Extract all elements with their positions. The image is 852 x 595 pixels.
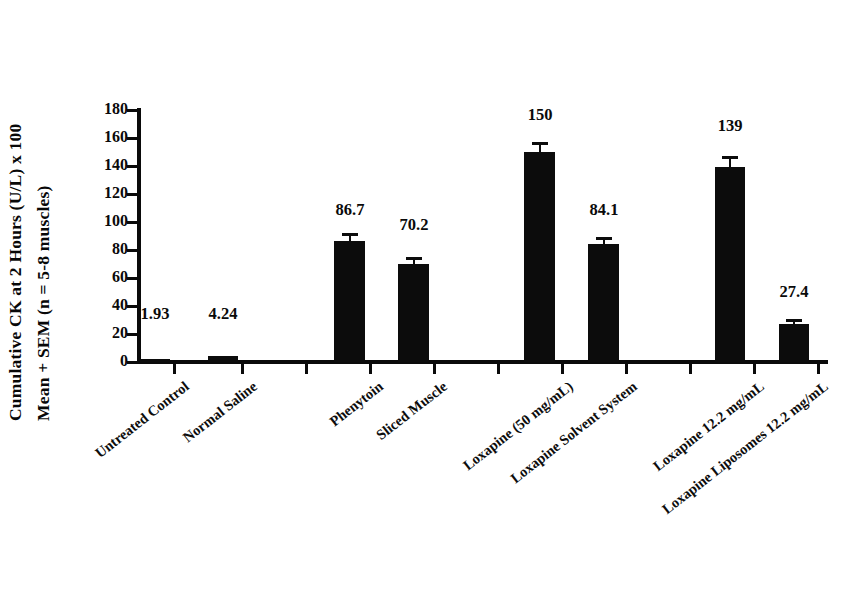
x-axis-category-label-text: Loxapine 12.2 mg/mL: [650, 378, 767, 475]
x-axis-category-label: Loxapine (50 mg/mL): [566, 295, 682, 391]
bar-chart-figure: Cumulative CK at 2 Hours (U/L) x 100 Mea…: [0, 0, 852, 595]
x-axis-category-label-text: Loxapine (50 mg/mL): [460, 378, 576, 474]
x-axis-category-label-text: Phenytoin: [326, 378, 386, 430]
x-axis-category-labels: Untreated ControlNormal SalinePhenytoinS…: [0, 0, 852, 595]
x-axis-category-label-text: Untreated Control: [92, 378, 192, 462]
x-axis-category-label-text: Loxapine Solvent System: [507, 378, 640, 487]
x-axis-category-label: Sliced Muscle: [440, 326, 517, 392]
x-axis-category-label: Loxapine Solvent System: [630, 282, 763, 391]
x-axis-category-label: Phenytoin: [376, 339, 436, 391]
